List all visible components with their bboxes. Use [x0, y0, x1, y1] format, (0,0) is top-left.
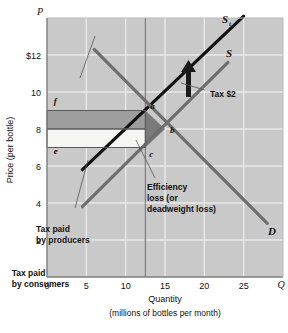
x-tick-20: 20 [199, 281, 209, 291]
chart-figure: P Q $12108642 0510152025 Price (per bott… [0, 0, 288, 333]
x-axis-title: Quantity [148, 294, 182, 304]
y-tick-10: 10 [31, 88, 41, 98]
y-axis-symbol: P [36, 6, 43, 17]
tax-amount-label: Tax $2 [210, 89, 236, 99]
y-tick-12: $12 [26, 51, 41, 61]
x-axis-subtitle: (millions of bottles per month) [109, 308, 221, 318]
supply-demand-tax-chart: P Q $12108642 0510152025 Price (per bott… [0, 0, 288, 333]
x-tick-15: 15 [160, 281, 170, 291]
y-tick-6: 6 [36, 162, 41, 172]
x-axis-symbol: Q [277, 279, 285, 290]
x-tick-5: 5 [84, 281, 89, 291]
point-label-c: c [149, 149, 153, 159]
point-label-e: e [54, 146, 58, 156]
x-tick-10: 10 [121, 281, 131, 291]
x-tick-25: 25 [239, 281, 249, 291]
y-tick-4: 4 [36, 199, 41, 209]
point-label-a: a [150, 101, 155, 111]
y-tick-8: 8 [36, 125, 41, 135]
curve-label-d: D [267, 225, 276, 237]
point-label-b: b [170, 125, 175, 135]
y-tick-labels: $12108642 [26, 51, 41, 246]
curve-label-s: S [226, 47, 232, 59]
y-axis-title: Price (per bottle) [5, 117, 15, 184]
x-tick-labels: 0510152025 [44, 281, 248, 291]
curve-label-st-text: S [222, 13, 228, 25]
